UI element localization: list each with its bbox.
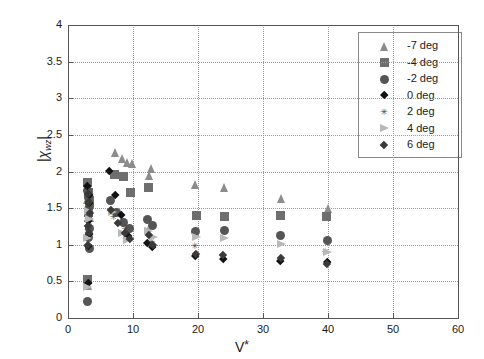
x-axis-label-star: * [244, 338, 249, 352]
data-point [323, 236, 332, 245]
y-axis-tick [68, 98, 73, 99]
y-axis-tick-label: 0 [34, 312, 62, 323]
data-point [220, 183, 228, 192]
x-axis-tick-label: 30 [248, 324, 278, 335]
x-axis-tick-label: 60 [443, 324, 473, 335]
legend-marker-circle-icon [377, 71, 391, 87]
legend-marker-icon: ✳ [380, 108, 388, 116]
data-point [276, 211, 285, 220]
legend-entry[interactable]: ✳2 deg [359, 104, 461, 120]
data-point [83, 297, 92, 306]
legend-entry[interactable]: 6 deg [359, 137, 461, 153]
legend-marker-diamond-small-icon [377, 137, 391, 153]
data-point [83, 283, 92, 291]
legend-marker-diamond-icon [377, 88, 391, 104]
legend-entry[interactable]: 0 deg [359, 88, 461, 104]
legend-marker-icon [380, 42, 388, 51]
x-axis-tick [198, 313, 199, 318]
gridline-vertical [198, 25, 199, 318]
y-axis-tick-label: 3.5 [34, 56, 62, 67]
x-axis-tick-label: 40 [313, 324, 343, 335]
y-axis-tick-label: 2 [34, 166, 62, 177]
y-axis-tick [68, 281, 73, 282]
legend-entry[interactable]: -2 deg [359, 71, 461, 87]
y-axis-tick [68, 245, 73, 246]
x-axis-line [68, 318, 459, 319]
x-axis-label-base: V [235, 339, 244, 355]
y-axis-tick [68, 208, 73, 209]
data-point [220, 212, 229, 221]
data-point [128, 159, 136, 168]
legend-marker-icon [380, 141, 388, 149]
x-axis-tick [328, 313, 329, 318]
data-point [220, 234, 229, 242]
legend-marker-triangle-icon [377, 38, 391, 54]
gridline-vertical [393, 25, 394, 318]
data-point [322, 212, 331, 221]
data-point [324, 204, 332, 213]
data-point [276, 231, 285, 240]
gridline-vertical [328, 25, 329, 318]
legend-marker-icon [380, 75, 389, 84]
legend-entry[interactable]: -7 deg [359, 38, 461, 54]
axis-top-spine [68, 25, 459, 26]
data-point [277, 240, 286, 248]
y-axis-tick [68, 318, 73, 319]
data-point [126, 188, 135, 197]
y-axis-tick-label: 0.5 [34, 275, 62, 286]
x-axis-tick-label: 50 [378, 324, 408, 335]
y-axis-tick [68, 62, 73, 63]
data-point [277, 194, 285, 203]
x-axis-tick [458, 313, 459, 318]
data-point [220, 226, 229, 235]
x-axis-tick [133, 313, 134, 318]
x-axis-label: V* [0, 338, 484, 355]
data-point [323, 248, 332, 256]
y-axis-tick-label: 1 [34, 239, 62, 250]
data-point [144, 183, 153, 192]
x-axis-tick [393, 313, 394, 318]
y-axis-tick-label: 2.5 [34, 129, 62, 140]
x-axis-tick-label: 20 [183, 324, 213, 335]
legend-label: 2 deg [407, 105, 435, 117]
y-axis-tick [68, 25, 73, 26]
data-point [191, 180, 199, 189]
x-axis-tick-label: 0 [53, 324, 83, 335]
y-axis-tick [68, 135, 73, 136]
data-point [192, 233, 201, 241]
x-axis-tick-label: 10 [118, 324, 148, 335]
y-axis-tick-label: 3 [34, 92, 62, 103]
legend-label: 6 deg [407, 138, 435, 150]
gridline-vertical [263, 25, 264, 318]
legend-marker-icon [380, 124, 389, 132]
gridline-vertical [133, 25, 134, 318]
legend-marker-star-icon: ✳ [377, 104, 391, 120]
y-axis-tick-label: 4 [34, 19, 62, 30]
data-point [119, 172, 128, 181]
legend-label: -2 deg [407, 72, 438, 84]
data-point [147, 164, 155, 173]
x-axis-tick [263, 313, 264, 318]
scatter-plot-figure: |χwz| V* -7 deg-4 deg-2 deg0 deg✳2 deg4 … [0, 0, 484, 359]
legend: -7 deg-4 deg-2 deg0 deg✳2 deg4 deg6 deg [358, 32, 462, 158]
legend-label: 4 deg [407, 122, 435, 134]
y-axis-tick [68, 172, 73, 173]
data-point [192, 211, 201, 220]
axis-right-spine [458, 25, 459, 319]
y-axis-tick-label: 1.5 [34, 202, 62, 213]
x-axis-tick [68, 313, 69, 318]
legend-label: -7 deg [407, 39, 438, 51]
